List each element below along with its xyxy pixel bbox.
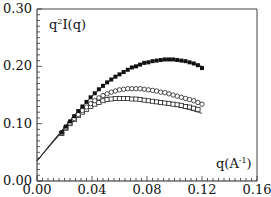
open-circle-marker	[167, 92, 171, 96]
filled-square-marker	[72, 114, 76, 118]
filled-square-marker	[192, 61, 196, 65]
open-circle-marker	[146, 88, 150, 92]
open-circle-marker	[88, 101, 92, 105]
open-square-marker	[196, 107, 200, 111]
y-tick-label: 0.00	[3, 173, 32, 188]
y-axis-label: q2I(q)	[49, 17, 86, 32]
filled-square-marker	[60, 130, 64, 134]
filled-square-marker	[134, 64, 138, 68]
x-tick-label: 0.04	[78, 182, 107, 197]
open-circle-marker	[159, 90, 163, 94]
open-circle-marker	[163, 91, 167, 95]
filled-square-marker	[184, 59, 188, 63]
filled-square-marker	[118, 72, 122, 76]
open-circle-marker	[171, 93, 175, 97]
filled-square-marker	[85, 100, 89, 104]
x-tick-label: 0.12	[188, 182, 217, 197]
fit-line	[37, 98, 202, 161]
x-axis-label: q(A-1)	[216, 156, 252, 171]
open-circle-marker	[97, 96, 101, 100]
filled-square-marker	[105, 80, 109, 84]
filled-square-marker	[188, 60, 192, 64]
open-circle-marker	[183, 96, 187, 100]
data-points	[60, 57, 205, 135]
open-circle-marker	[154, 89, 158, 93]
open-circle-marker	[200, 102, 204, 106]
filled-square-marker	[122, 70, 126, 74]
y-tick-label: 0.30	[3, 1, 32, 16]
filled-square-marker	[196, 63, 200, 67]
open-circle-marker	[109, 90, 113, 94]
open-circle-marker	[117, 88, 121, 92]
open-circle-marker	[84, 105, 88, 109]
filled-square-marker	[80, 104, 84, 108]
filled-square-marker	[200, 66, 204, 70]
filled-square-marker	[151, 59, 155, 63]
filled-square-marker	[64, 125, 68, 129]
filled-square-marker	[155, 59, 159, 63]
filled-square-marker	[109, 78, 113, 82]
open-circle-marker	[179, 95, 183, 99]
x-tick-label: 0.08	[133, 182, 162, 197]
open-circle-marker	[121, 87, 125, 91]
filled-square-marker	[68, 119, 72, 123]
filled-square-marker	[89, 95, 93, 99]
filled-square-marker	[97, 87, 101, 91]
filled-square-marker	[76, 109, 80, 113]
y-tick-label: 0.20	[3, 58, 32, 73]
open-circle-marker	[138, 86, 142, 90]
filled-square-marker	[179, 59, 183, 63]
filled-square-marker	[175, 58, 179, 62]
filled-square-marker	[142, 61, 146, 65]
filled-square-marker	[146, 60, 150, 64]
open-circle-marker	[150, 88, 154, 92]
x-tick-label: 0.16	[243, 182, 271, 197]
open-circle-marker	[113, 89, 117, 93]
open-circle-marker	[175, 94, 179, 98]
filled-square-marker	[159, 58, 163, 62]
open-circle-marker	[80, 108, 84, 112]
filled-square-marker	[126, 68, 130, 72]
filled-square-marker	[171, 57, 175, 61]
filled-square-marker	[130, 65, 134, 69]
y-tick-label: 0.10	[3, 116, 32, 131]
open-circle-marker	[142, 87, 146, 91]
open-circle-marker	[187, 97, 191, 101]
filled-square-marker	[163, 57, 167, 61]
filled-square-marker	[93, 91, 97, 95]
filled-square-marker	[167, 57, 171, 61]
filled-square-marker	[113, 75, 117, 79]
filled-square-marker	[101, 84, 105, 88]
open-circle-marker	[93, 99, 97, 103]
chart: 0.000.040.080.120.160.000.100.200.30 q2I…	[0, 0, 271, 197]
filled-square-marker	[138, 63, 142, 67]
